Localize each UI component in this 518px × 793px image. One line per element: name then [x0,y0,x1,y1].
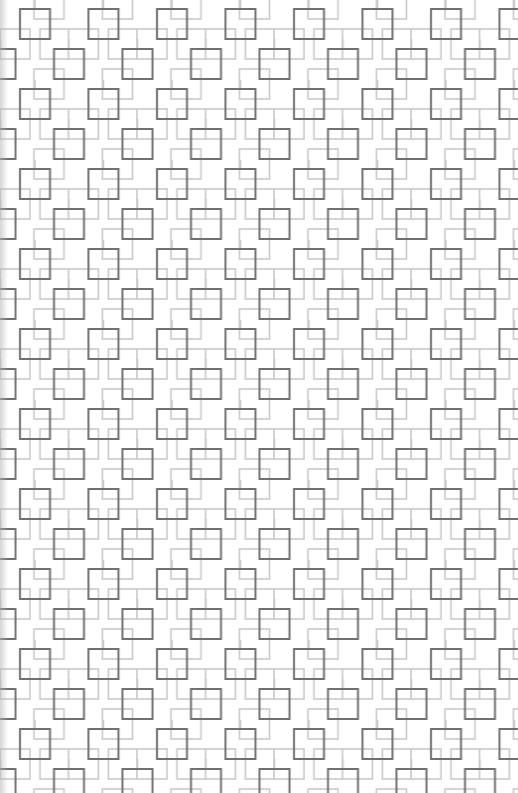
patterned-background [0,0,518,793]
square-pattern-graphic [0,0,518,793]
left-edge-shadow [0,0,8,793]
